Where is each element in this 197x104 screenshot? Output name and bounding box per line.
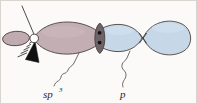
sp3-back-lobe (2, 30, 30, 46)
sigma-overlap-region (95, 23, 105, 54)
p-leader-line (122, 51, 130, 87)
p-label: p (119, 88, 126, 100)
carbon-atom-center (30, 34, 39, 43)
electron-dot-2 (98, 41, 102, 45)
electron-dot-1 (98, 31, 102, 35)
sp3-front-lobe (33, 22, 101, 54)
sp3-label: sp 3 (43, 86, 63, 100)
plain-bond-up-left (22, 6, 35, 36)
p-orbital-right-lobe (143, 21, 191, 55)
p-label-text: p (119, 88, 126, 100)
orbital-diagram-canvas: sp 3 p (1, 1, 197, 104)
sp3-label-base: sp (43, 88, 53, 100)
sp3-label-superscript: 3 (58, 86, 63, 94)
solid-wedge-bond-down (26, 42, 40, 63)
sp3-leader-line (54, 53, 79, 86)
orbital-overlap-figure: sp 3 p (0, 0, 197, 104)
